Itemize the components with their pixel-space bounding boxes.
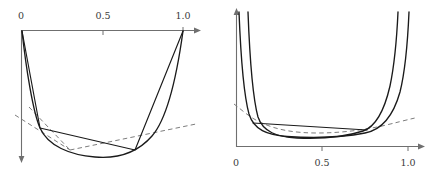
- right-y-axis: [234, 8, 240, 147]
- right-xtick-label-half: 0.5: [314, 157, 329, 168]
- right-plot-svg: 0 0.5 1.0: [217, 0, 433, 173]
- right-plot: 0 0.5 1.0: [217, 0, 433, 173]
- left-y-axis: [19, 30, 25, 163]
- right-xtick-label-one: 1.0: [400, 157, 415, 168]
- right-x-axis-arrowhead: [418, 144, 425, 150]
- right-outer-barrier-curve: [248, 12, 398, 138]
- left-xtick-label-0: 0: [18, 10, 24, 21]
- left-main-curve: [22, 31, 183, 157]
- left-plot: 0 0.5 1.0: [0, 0, 217, 173]
- right-inner-barrier-curve: [239, 12, 409, 137]
- figure-container: 0 0.5 1.0: [0, 0, 433, 173]
- left-plot-svg: 0 0.5 1.0: [0, 0, 217, 173]
- left-y-axis-arrowhead: [19, 156, 25, 163]
- left-chord-polyline: [22, 31, 183, 150]
- left-x-axis: [21, 27, 201, 35]
- left-xtick-label-one: 1.0: [175, 10, 190, 21]
- right-xtick-label-0: 0: [233, 157, 239, 168]
- left-dashed-segment-b: [70, 124, 196, 150]
- right-x-axis: [236, 144, 425, 151]
- left-x-axis-arrowhead: [194, 28, 201, 34]
- left-xtick-label-half: 0.5: [95, 10, 110, 21]
